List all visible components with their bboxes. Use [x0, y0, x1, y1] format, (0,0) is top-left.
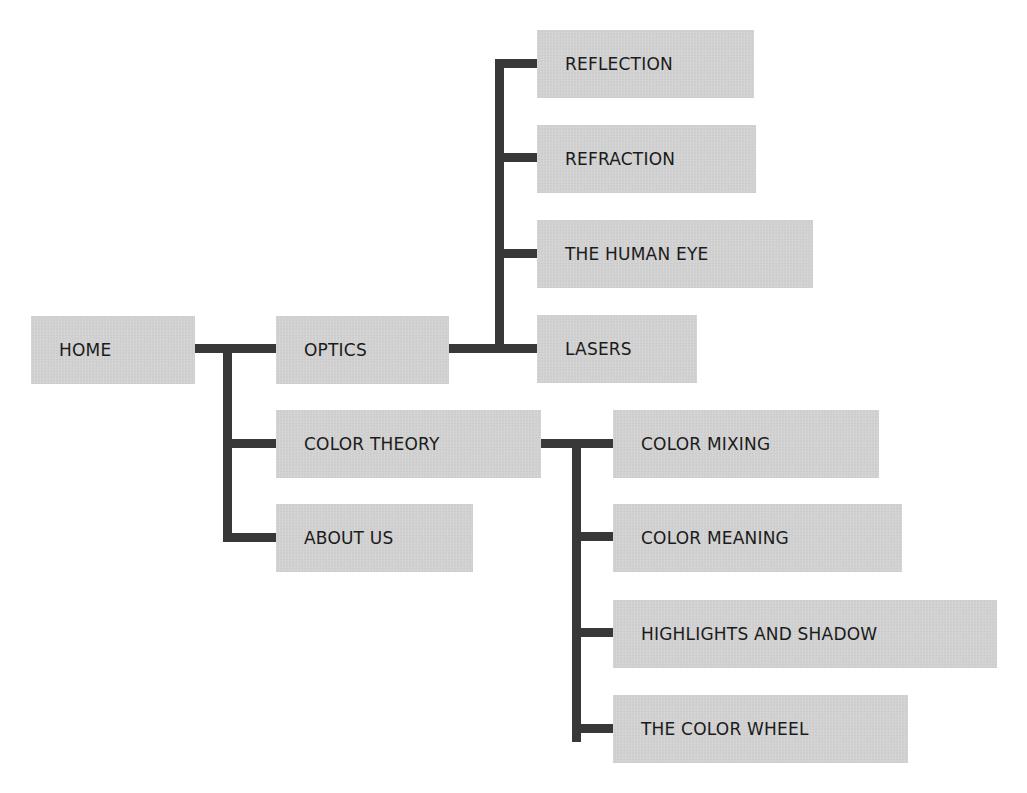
node-color-meaning[interactable]: COLOR MEANING [613, 504, 902, 572]
node-highlights-and-shadow[interactable]: HIGHLIGHTS AND SHADOW [613, 600, 997, 668]
node-label: COLOR MIXING [641, 434, 770, 454]
connector-optics-out [449, 344, 537, 353]
connector-to-refraction [495, 153, 537, 162]
connector-optics-trunk [495, 59, 504, 353]
node-optics[interactable]: OPTICS [276, 316, 449, 384]
connector-to-about-us [223, 533, 276, 542]
node-label: OPTICS [304, 340, 367, 360]
node-color-theory[interactable]: COLOR THEORY [276, 410, 541, 478]
node-the-human-eye[interactable]: THE HUMAN EYE [537, 220, 813, 288]
node-lasers[interactable]: LASERS [537, 315, 697, 383]
connector-color-theory-trunk [572, 439, 581, 742]
node-reflection[interactable]: REFLECTION [537, 30, 754, 98]
connector-to-reflection [495, 59, 537, 68]
node-label: THE COLOR WHEEL [641, 719, 809, 739]
node-color-mixing[interactable]: COLOR MIXING [613, 410, 879, 478]
connector-home-to-optics [195, 344, 276, 353]
node-label: COLOR THEORY [304, 434, 440, 454]
node-label: LASERS [565, 339, 632, 359]
node-the-color-wheel[interactable]: THE COLOR WHEEL [613, 695, 908, 763]
node-label: REFRACTION [565, 149, 675, 169]
connector-to-human-eye [495, 249, 537, 258]
node-about-us[interactable]: ABOUT US [276, 504, 473, 572]
connector-to-color-theory [223, 439, 276, 448]
node-label: THE HUMAN EYE [565, 244, 708, 264]
node-label: HIGHLIGHTS AND SHADOW [641, 624, 877, 644]
connector-to-highlights [572, 628, 613, 637]
connector-to-color-wheel [572, 724, 613, 733]
node-label: HOME [59, 340, 111, 360]
node-label: ABOUT US [304, 528, 393, 548]
node-refraction[interactable]: REFRACTION [537, 125, 756, 193]
connector-to-color-meaning [572, 532, 613, 541]
node-label: COLOR MEANING [641, 528, 789, 548]
node-label: REFLECTION [565, 54, 673, 74]
node-home[interactable]: HOME [31, 316, 195, 384]
